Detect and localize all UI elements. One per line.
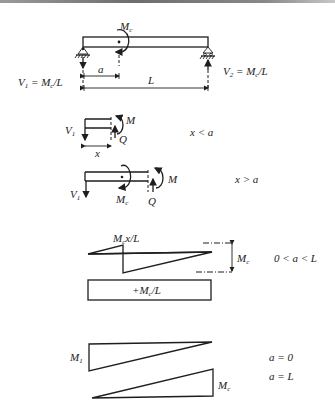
left-pin-support-icon xyxy=(75,47,90,58)
right-roller-support-icon xyxy=(200,47,215,59)
v1-label: V1 xyxy=(65,124,75,138)
dimension-L xyxy=(84,85,208,91)
beam-body xyxy=(83,37,208,47)
m-label: M xyxy=(167,173,178,185)
case-a-zero: a = 0 xyxy=(269,351,293,363)
condition-x-greater-a: x > a xyxy=(234,173,259,185)
mc-label: Mc xyxy=(115,193,129,207)
shear-force-diagram: +Mc/L xyxy=(88,280,211,300)
condition-range: 0 < a < L xyxy=(274,252,317,264)
q-label: Q xyxy=(148,195,156,207)
moment-expression-label: Mcx/L xyxy=(112,232,139,246)
condition-x-less-a: x < a xyxy=(189,126,214,138)
dimension-L-label: L xyxy=(147,74,154,86)
dimension-a-label: a xyxy=(98,63,104,75)
moment-m-arrow-icon xyxy=(117,116,123,134)
x-label: x xyxy=(94,147,100,159)
bending-moment-diagram: Mcx/L Mc 0 < a < L xyxy=(88,232,317,273)
applied-moment-icon xyxy=(116,30,129,66)
moment-height-label: Mc xyxy=(236,252,250,266)
beam-figure: Mc V1 = Mc/L V2 = Mc/L a L xyxy=(18,20,268,91)
moment-diagram-a-L: Mc xyxy=(92,369,231,398)
right-reaction-label: V2 = Mc/L xyxy=(223,65,268,79)
case-a-L: a = L xyxy=(269,370,294,382)
free-body-section-2: V1 Mc M Q x > a xyxy=(70,165,259,207)
beam-diagram: Mc V1 = Mc/L V2 = Mc/L a L V1 M xyxy=(0,0,335,410)
m-label: M xyxy=(125,114,136,126)
left-reaction-label: V1 = Mc/L xyxy=(18,76,63,90)
moment-diagram-a-zero: M1 xyxy=(69,342,212,371)
moment-m-arrow-icon xyxy=(156,168,163,188)
mc-label: Mc xyxy=(217,379,231,393)
moment-label: Mc xyxy=(119,20,133,34)
shear-value-label: +Mc/L xyxy=(132,284,161,298)
q-label: Q xyxy=(119,133,127,145)
m1-label: M1 xyxy=(69,351,83,365)
free-body-section-1: V1 M Q x x < a xyxy=(65,114,214,159)
v1-label: V1 xyxy=(70,188,80,202)
